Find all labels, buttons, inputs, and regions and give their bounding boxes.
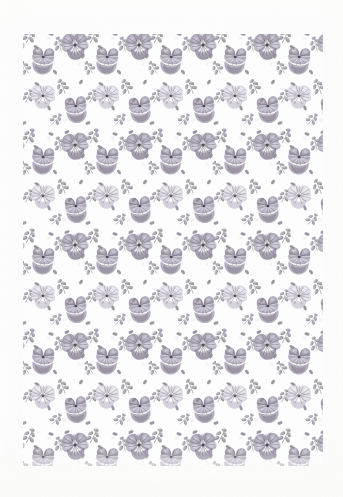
printed-pattern-area bbox=[23, 34, 323, 466]
floral-pattern-svg bbox=[23, 34, 323, 466]
pattern-swatch-canvas bbox=[0, 0, 343, 497]
